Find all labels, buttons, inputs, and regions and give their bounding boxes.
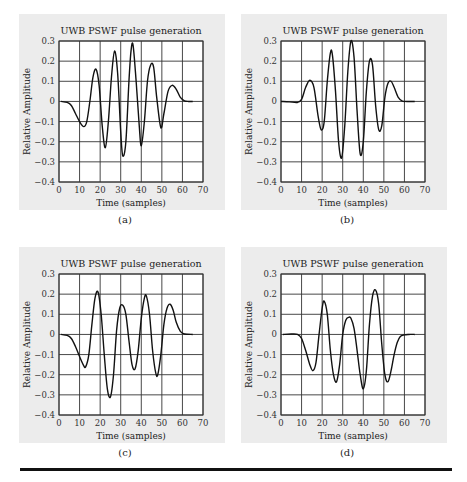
x-axis-label: Time (samples) xyxy=(318,431,388,441)
x-tick-label: 60 xyxy=(399,185,410,195)
y-axis-label: Relative Amplitude xyxy=(22,68,32,155)
x-tick-label: 30 xyxy=(337,185,348,195)
y-tick-label: 0.2 xyxy=(263,289,277,299)
x-tick-label: 40 xyxy=(358,185,369,195)
y-tick-label: 0.2 xyxy=(263,56,277,66)
y-tick-label: 0.2 xyxy=(41,289,55,299)
y-tick-label: 0.3 xyxy=(263,269,277,279)
y-tick-label: −0.4 xyxy=(34,177,55,187)
x-tick-label: 60 xyxy=(177,418,188,428)
panel-b: UWB PSWF pulse generation0.30.20.10−0.1−… xyxy=(241,14,447,210)
caption-a: (a) xyxy=(105,214,145,225)
y-tick-label: 0.1 xyxy=(263,309,277,319)
plot-area xyxy=(59,41,203,182)
y-tick-label: −0.2 xyxy=(256,370,277,380)
y-tick-label: −0.2 xyxy=(256,137,277,147)
plot-area xyxy=(281,41,425,182)
y-tick-label: −0.2 xyxy=(34,370,55,380)
y-tick-label: −0.1 xyxy=(256,350,277,360)
y-tick-label: −0.4 xyxy=(34,410,55,420)
y-tick-label: 0 xyxy=(272,329,277,339)
plot-area xyxy=(59,274,203,415)
plot-area xyxy=(281,274,425,415)
x-tick-label: 50 xyxy=(156,418,167,428)
chart-a: UWB PSWF pulse generation0.30.20.10−0.1−… xyxy=(19,14,225,210)
y-tick-label: 0 xyxy=(50,329,55,339)
x-tick-label: 0 xyxy=(278,185,283,195)
x-tick-label: 20 xyxy=(95,185,106,195)
y-tick-label: 0.2 xyxy=(41,56,55,66)
y-tick-label: −0.1 xyxy=(34,350,55,360)
x-tick-label: 10 xyxy=(74,418,85,428)
x-tick-label: 10 xyxy=(74,185,85,195)
y-tick-label: 0 xyxy=(50,96,55,106)
figure-bottom-rule xyxy=(20,468,452,471)
x-tick-label: 40 xyxy=(136,185,147,195)
x-axis-label: Time (samples) xyxy=(96,198,166,208)
x-tick-label: 50 xyxy=(156,185,167,195)
x-tick-label: 50 xyxy=(378,185,389,195)
chart-title: UWB PSWF pulse generation xyxy=(60,25,201,36)
x-tick-label: 20 xyxy=(317,185,328,195)
y-axis-label: Relative Amplitude xyxy=(244,68,254,155)
x-tick-label: 20 xyxy=(317,418,328,428)
x-tick-label: 70 xyxy=(198,185,209,195)
panel-c: UWB PSWF pulse generation0.30.20.10−0.1−… xyxy=(19,247,225,443)
x-tick-label: 40 xyxy=(136,418,147,428)
caption-c: (c) xyxy=(105,447,145,458)
y-tick-label: 0.3 xyxy=(41,269,55,279)
x-tick-label: 10 xyxy=(296,418,307,428)
y-tick-label: −0.3 xyxy=(34,157,55,167)
x-tick-label: 0 xyxy=(278,418,283,428)
chart-c: UWB PSWF pulse generation0.30.20.10−0.1−… xyxy=(19,247,225,443)
x-axis-label: Time (samples) xyxy=(318,198,388,208)
caption-b: (b) xyxy=(327,214,367,225)
x-tick-label: 60 xyxy=(177,185,188,195)
x-tick-label: 50 xyxy=(378,418,389,428)
y-tick-label: −0.1 xyxy=(256,117,277,127)
chart-title: UWB PSWF pulse generation xyxy=(60,258,201,269)
chart-title: UWB PSWF pulse generation xyxy=(282,25,423,36)
x-tick-label: 40 xyxy=(358,418,369,428)
y-tick-label: −0.4 xyxy=(256,410,277,420)
y-tick-label: −0.3 xyxy=(34,390,55,400)
caption-d: (d) xyxy=(327,447,367,458)
y-tick-label: −0.4 xyxy=(256,177,277,187)
y-tick-label: 0.1 xyxy=(41,76,55,86)
y-tick-label: 0.3 xyxy=(41,36,55,46)
y-tick-label: 0 xyxy=(272,96,277,106)
y-axis-label: Relative Amplitude xyxy=(22,301,32,388)
panel-d: UWB PSWF pulse generation0.30.20.10−0.1−… xyxy=(241,247,447,443)
x-tick-label: 30 xyxy=(115,185,126,195)
x-tick-label: 70 xyxy=(420,185,431,195)
y-tick-label: −0.3 xyxy=(256,390,277,400)
y-tick-label: −0.1 xyxy=(34,117,55,127)
x-axis-label: Time (samples) xyxy=(96,431,166,441)
chart-d: UWB PSWF pulse generation0.30.20.10−0.1−… xyxy=(241,247,447,443)
x-tick-label: 0 xyxy=(56,185,61,195)
x-tick-label: 70 xyxy=(198,418,209,428)
y-tick-label: 0.1 xyxy=(263,76,277,86)
x-tick-label: 20 xyxy=(95,418,106,428)
y-tick-label: 0.3 xyxy=(263,36,277,46)
y-tick-label: −0.2 xyxy=(34,137,55,147)
x-tick-label: 70 xyxy=(420,418,431,428)
chart-title: UWB PSWF pulse generation xyxy=(282,258,423,269)
x-tick-label: 30 xyxy=(115,418,126,428)
chart-b: UWB PSWF pulse generation0.30.20.10−0.1−… xyxy=(241,14,447,210)
y-tick-label: 0.1 xyxy=(41,309,55,319)
x-tick-label: 30 xyxy=(337,418,348,428)
y-tick-label: −0.3 xyxy=(256,157,277,167)
x-tick-label: 10 xyxy=(296,185,307,195)
x-tick-label: 0 xyxy=(56,418,61,428)
y-axis-label: Relative Amplitude xyxy=(244,301,254,388)
x-tick-label: 60 xyxy=(399,418,410,428)
panel-a: UWB PSWF pulse generation0.30.20.10−0.1−… xyxy=(19,14,225,210)
